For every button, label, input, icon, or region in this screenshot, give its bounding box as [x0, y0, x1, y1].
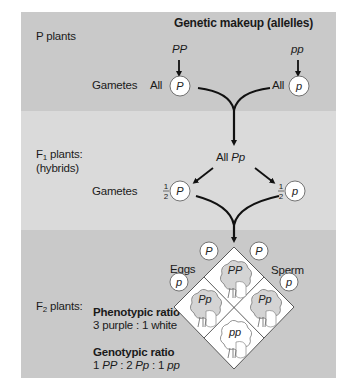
cell-left-genotype: Pp	[198, 293, 211, 305]
svg-text:p: p	[175, 276, 182, 288]
sperm-circle-p: p	[280, 273, 298, 291]
punnett-square: PP Pp Pp pp	[174, 247, 294, 369]
svg-text:2: 2	[164, 192, 169, 201]
fertilization-curve-right	[234, 88, 270, 110]
sperm-circle-P: P	[250, 242, 268, 260]
svg-text:p: p	[285, 276, 292, 288]
cross-diagram: P p 1 2 P 1 2 p PP Pp Pp pp	[0, 0, 355, 387]
f1-left-gamete: 1 2 P	[163, 181, 190, 201]
svg-text:p: p	[295, 80, 302, 92]
svg-text:2: 2	[279, 192, 284, 201]
egg-circle-p: p	[170, 273, 188, 291]
cell-top-genotype: PP	[228, 264, 243, 276]
self-fertilization-curve-right	[234, 196, 279, 225]
svg-text:P: P	[176, 185, 184, 197]
cell-right-genotype: Pp	[258, 293, 271, 305]
svg-text:P: P	[205, 245, 213, 257]
f1-right-split-arrow	[255, 168, 273, 182]
svg-text:P: P	[176, 80, 184, 92]
f1-left-split-arrow	[195, 168, 213, 182]
svg-text:p: p	[291, 185, 298, 197]
p-gen-right-gamete-circle: p	[289, 76, 309, 96]
svg-text:1: 1	[279, 182, 284, 191]
cell-bottom-genotype: pp	[228, 326, 241, 338]
p-gen-left-gamete-circle: P	[170, 76, 190, 96]
svg-text:P: P	[255, 245, 263, 257]
svg-text:1: 1	[164, 182, 169, 191]
egg-circle-P: P	[200, 242, 218, 260]
f1-right-gamete: 1 2 p	[278, 181, 305, 201]
self-fertilization-curve-left	[196, 196, 234, 240]
fertilization-curve-left	[198, 88, 234, 143]
